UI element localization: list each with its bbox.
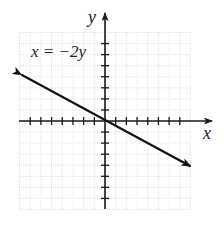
coordinate-graph: x = −2y x y	[0, 0, 224, 227]
x-axis-label: x	[202, 123, 211, 143]
y-axis-label: y	[86, 7, 96, 27]
equation-label: x = −2y	[30, 42, 86, 61]
